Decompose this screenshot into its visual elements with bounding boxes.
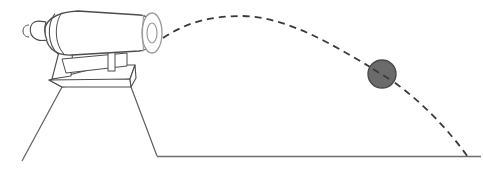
cannon-trajectory-diagram: Cannon projectile trajectory diagram (0, 0, 483, 170)
hill-right-slope (131, 87, 157, 156)
hill (22, 87, 157, 161)
cannon-barrel (45, 11, 152, 55)
cannon-cascabel-tip (23, 25, 29, 37)
trajectory-path (163, 16, 468, 157)
platform-front-face (49, 79, 131, 87)
trajectory-dashed-curve (163, 16, 468, 157)
cannon-cascabel-knob (30, 21, 47, 40)
cannonball-body (368, 60, 396, 88)
cannonball (368, 60, 396, 88)
cannon (23, 11, 162, 79)
hill-left-slope (22, 87, 62, 161)
cannon-muzzle-bore (147, 23, 157, 43)
diagram-canvas: Cannon projectile trajectory diagram (0, 0, 483, 170)
